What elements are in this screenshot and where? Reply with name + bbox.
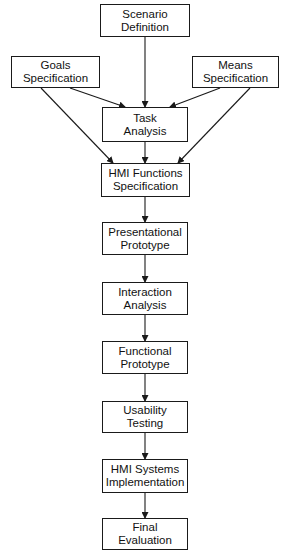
node-label-line: Implementation bbox=[106, 476, 185, 489]
node-label-line: Analysis bbox=[124, 125, 167, 138]
node-label-line: Analysis bbox=[124, 299, 167, 312]
node-usability-testing: Usability Testing bbox=[102, 401, 188, 433]
node-label-line: Specification bbox=[113, 180, 178, 193]
node-hmi-systems-implementation: HMI Systems Implementation bbox=[102, 459, 188, 493]
node-label-line: Final bbox=[133, 521, 158, 534]
node-label-line: Functional bbox=[118, 345, 171, 358]
node-task-analysis: Task Analysis bbox=[102, 107, 188, 142]
node-label-line: Scenario bbox=[122, 8, 167, 21]
edge-arrow-goals-to-task bbox=[70, 88, 125, 107]
node-functional-prototype: Functional Prototype bbox=[102, 341, 188, 374]
node-label-line: HMI Functions bbox=[108, 167, 182, 180]
node-label-line: Task bbox=[133, 112, 157, 125]
node-means-specification: Means Specification bbox=[192, 56, 279, 88]
node-label-line: Prototype bbox=[120, 239, 169, 252]
node-presentational-prototype: Presentational Prototype bbox=[102, 222, 188, 255]
node-label-line: Usability bbox=[123, 404, 166, 417]
node-label-line: Testing bbox=[127, 417, 163, 430]
node-label-line: Interaction bbox=[118, 286, 172, 299]
node-label-line: Definition bbox=[121, 21, 169, 34]
node-interaction-analysis: Interaction Analysis bbox=[102, 282, 188, 315]
node-label-line: HMI Systems bbox=[111, 463, 179, 476]
node-label-line: Specification bbox=[203, 72, 268, 85]
node-label-line: Presentational bbox=[108, 226, 182, 239]
node-goals-specification: Goals Specification bbox=[11, 56, 100, 88]
node-final-evaluation: Final Evaluation bbox=[102, 518, 188, 550]
node-label-line: Evaluation bbox=[118, 534, 172, 547]
node-label-line: Means bbox=[218, 59, 253, 72]
node-label-line: Specification bbox=[23, 72, 88, 85]
node-label-line: Prototype bbox=[120, 358, 169, 371]
node-scenario-definition: Scenario Definition bbox=[100, 4, 190, 37]
node-hmi-functions-specification: HMI Functions Specification bbox=[101, 163, 190, 197]
edge-arrow-means-to-hmi_functions bbox=[178, 88, 250, 163]
edge-arrow-means-to-task bbox=[170, 88, 220, 107]
node-label-line: Goals bbox=[40, 59, 70, 72]
